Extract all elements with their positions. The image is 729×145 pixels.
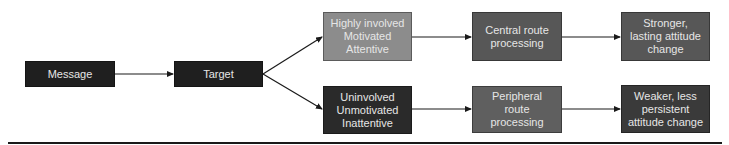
node-peripheral-route: Peripheral route processing [472, 86, 562, 133]
node-low-involvement-label: Uninvolved Unmotivated Inattentive [337, 91, 399, 130]
elaboration-likelihood-diagram: Message Target Highly involved Motivated… [0, 0, 729, 145]
node-high-involvement-label: Highly involved Motivated Attentive [331, 17, 405, 56]
node-target: Target [174, 61, 263, 87]
bottom-divider [8, 142, 722, 144]
node-message: Message [25, 61, 115, 87]
node-strong-change: Stronger, lasting attitude change [621, 12, 710, 61]
node-message-label: Message [48, 68, 93, 81]
node-peripheral-route-label: Peripheral route processing [490, 90, 543, 129]
arrow-target-to-low-involvement [263, 74, 322, 109]
node-target-label: Target [203, 68, 234, 81]
node-central-route: Central route processing [472, 12, 562, 61]
node-weak-change: Weaker, less persistent attitude change [621, 85, 710, 133]
node-weak-change-label: Weaker, less persistent attitude change [628, 90, 703, 129]
arrow-target-to-high-involvement [263, 37, 322, 74]
node-high-involvement: Highly involved Motivated Attentive [323, 12, 412, 61]
node-central-route-label: Central route processing [485, 24, 549, 50]
node-strong-change-label: Stronger, lasting attitude change [630, 17, 701, 56]
node-low-involvement: Uninvolved Unmotivated Inattentive [323, 86, 412, 134]
